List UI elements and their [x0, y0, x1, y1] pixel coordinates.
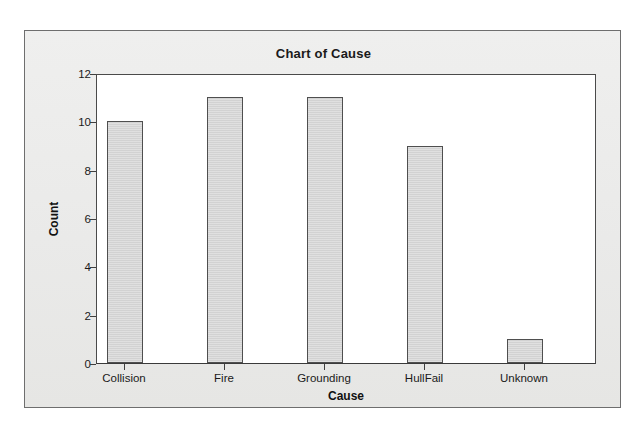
x-tick-mark	[424, 364, 425, 370]
y-axis-title: Count	[46, 74, 62, 364]
chart-title: Chart of Cause	[25, 46, 622, 61]
chart-figure-panel: Chart of Cause Count 024681012 Collision…	[24, 30, 621, 408]
bar-grounding	[307, 97, 343, 363]
plot-area	[96, 74, 596, 364]
x-tick-mark	[124, 364, 125, 370]
x-tick-label-hullfail: HullFail	[405, 372, 443, 384]
bar-collision	[107, 121, 143, 363]
y-axis-tick-labels: 024681012	[61, 74, 91, 364]
y-axis-title-label: Count	[47, 202, 61, 237]
x-tick-label-unknown: Unknown	[500, 372, 548, 384]
x-axis-tick-marks	[96, 364, 596, 372]
x-tick-label-grounding: Grounding	[297, 372, 351, 384]
x-axis-tick-labels: CollisionFireGroundingHullFailUnknown	[96, 372, 596, 390]
bar-unknown	[507, 339, 543, 363]
x-tick-mark	[524, 364, 525, 370]
bar-fire	[207, 97, 243, 363]
x-tick-mark	[324, 364, 325, 370]
x-tick-label-fire: Fire	[214, 372, 234, 384]
x-tick-mark	[224, 364, 225, 370]
x-tick-label-collision: Collision	[102, 372, 145, 384]
bar-hullfail	[407, 146, 443, 364]
x-axis-title: Cause	[96, 389, 596, 403]
